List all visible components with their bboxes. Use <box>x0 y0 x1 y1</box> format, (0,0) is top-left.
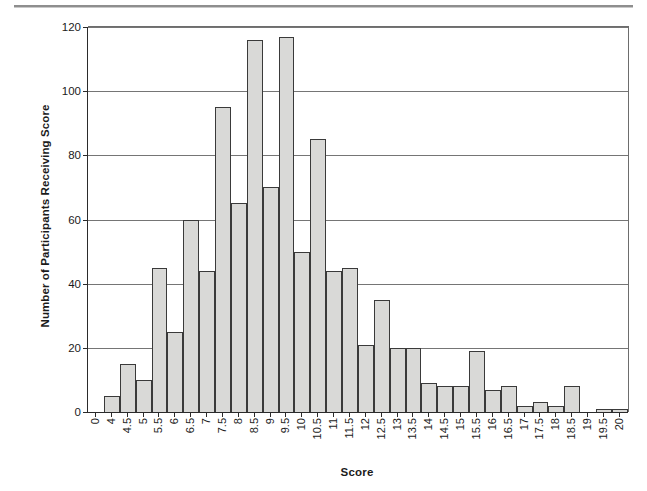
x-axis-tick-label: 8.5 <box>248 418 260 433</box>
x-axis-tick-label: 9 <box>264 418 276 424</box>
x-axis-tick-label: 19.5 <box>597 418 609 439</box>
x-axis-tick-mark <box>349 412 350 417</box>
x-axis-tick-mark <box>270 412 271 417</box>
x-axis-tick-mark <box>190 412 191 417</box>
bar <box>406 348 422 412</box>
x-axis-tick-label-slot: 9 <box>262 418 278 460</box>
bar-slot <box>421 27 437 412</box>
bar <box>104 396 120 412</box>
x-axis-tick-mark <box>206 412 207 417</box>
x-axis-tick-label-slot: 11.5 <box>341 418 357 460</box>
x-axis-tick-label-slot: 6.5 <box>182 418 198 460</box>
bar-slot <box>548 27 564 412</box>
x-axis-tick-label-slot: 4 <box>103 418 119 460</box>
x-axis-tick-mark <box>444 412 445 417</box>
x-axis-tick-label: 16 <box>486 418 498 430</box>
x-axis-tick-label-slot: 20 <box>611 418 627 460</box>
x-axis-tick-label: 4 <box>105 418 117 424</box>
y-axis-tick-label: 20 <box>68 342 81 354</box>
bar-slot <box>501 27 517 412</box>
bar <box>263 187 279 412</box>
bars-group <box>88 27 628 412</box>
x-axis-tick-label: 17.5 <box>533 418 545 439</box>
x-axis-tick-label-slot: 13.5 <box>405 418 421 460</box>
x-axis-tick-label-slot: 19.5 <box>595 418 611 460</box>
x-axis-tick-label: 12 <box>359 418 371 430</box>
y-axis-tick-label: 60 <box>68 214 81 226</box>
x-axis-tick-labels-group: 044.555.566.577.588.599.51010.51111.5121… <box>87 418 627 460</box>
x-axis-tick-mark <box>127 412 128 417</box>
bar-slot <box>342 27 358 412</box>
x-axis-tick-label-slot: 16 <box>484 418 500 460</box>
bar <box>421 383 437 412</box>
x-axis-tick-label-slot: 19 <box>579 418 595 460</box>
x-axis-tick-label-slot: 14 <box>420 418 436 460</box>
bar-slot <box>564 27 580 412</box>
bar <box>374 300 390 412</box>
x-axis-tick-label-slot: 12 <box>357 418 373 460</box>
bar-slot <box>136 27 152 412</box>
bar-slot <box>517 27 533 412</box>
bar <box>342 268 358 412</box>
x-axis-tick-mark <box>571 412 572 417</box>
x-axis-tick-mark <box>428 412 429 417</box>
x-axis-tick-label-slot: 16.5 <box>500 418 516 460</box>
x-axis-tick-mark <box>158 412 159 417</box>
x-axis-tick-mark <box>555 412 556 417</box>
bar-slot <box>596 27 612 412</box>
bar-slot <box>294 27 310 412</box>
x-axis-tick-label: 8 <box>232 418 244 424</box>
x-axis-tick-label-slot: 8 <box>230 418 246 460</box>
x-axis-tick-label: 15 <box>454 418 466 430</box>
y-axis-tick-label: 0 <box>75 406 81 418</box>
bar <box>167 332 183 412</box>
x-axis-tick-label: 18 <box>549 418 561 430</box>
x-axis-tick-label-slot: 10 <box>293 418 309 460</box>
plot-right-border <box>628 26 629 412</box>
x-axis-title: Score <box>87 466 627 478</box>
bar-slot <box>231 27 247 412</box>
bar <box>310 139 326 412</box>
x-axis-tick-label: 5.5 <box>152 418 164 433</box>
bar-slot <box>437 27 453 412</box>
x-axis-tick-label-slot: 5.5 <box>151 418 167 460</box>
x-axis-tick-mark <box>412 412 413 417</box>
x-axis-tick-label-slot: 17.5 <box>532 418 548 460</box>
bar <box>501 386 517 412</box>
bar-slot <box>104 27 120 412</box>
x-axis-tick-mark <box>111 412 112 417</box>
plot-area: 020406080100120 <box>87 27 628 413</box>
bar <box>215 107 231 412</box>
x-axis-tick-label: 19 <box>581 418 593 430</box>
x-axis-tick-mark <box>365 412 366 417</box>
bar-slot <box>612 27 628 412</box>
x-axis-tick-label: 7.5 <box>216 418 228 433</box>
x-axis-tick-label-slot: 15.5 <box>468 418 484 460</box>
bar-slot <box>390 27 406 412</box>
bar-slot <box>533 27 549 412</box>
x-axis-tick-mark <box>476 412 477 417</box>
bar-slot <box>469 27 485 412</box>
bar-slot <box>199 27 215 412</box>
x-axis-tick-mark <box>381 412 382 417</box>
bar-slot <box>374 27 390 412</box>
bar-slot <box>88 27 104 412</box>
x-axis-tick-label: 6 <box>168 418 180 424</box>
x-axis-tick-label: 11 <box>327 418 339 429</box>
x-axis-tick-mark <box>539 412 540 417</box>
x-axis-tick-label-slot: 11 <box>325 418 341 460</box>
x-axis-tick-label: 10.5 <box>311 418 323 439</box>
bar-slot <box>485 27 501 412</box>
x-axis-tick-label-slot: 7.5 <box>214 418 230 460</box>
bar-slot <box>120 27 136 412</box>
bar-slot <box>326 27 342 412</box>
x-axis-tick-mark <box>301 412 302 417</box>
histogram-figure: Number of Participants Receiving Score 0… <box>0 0 647 491</box>
x-axis-tick-label: 18.5 <box>565 418 577 439</box>
x-axis-tick-label: 15.5 <box>470 418 482 439</box>
bar-slot <box>183 27 199 412</box>
bar <box>533 402 549 412</box>
bar-slot <box>263 27 279 412</box>
bar <box>183 220 199 413</box>
bar-slot <box>453 27 469 412</box>
